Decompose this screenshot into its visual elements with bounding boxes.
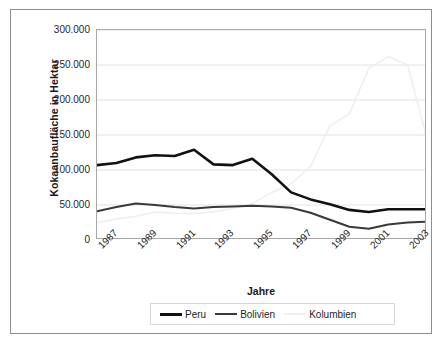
chart-legend: PeruBolivienKolumbien — [150, 303, 395, 325]
legend-label: Bolivien — [240, 309, 275, 320]
y-axis-tick: 50.000 — [28, 199, 90, 210]
y-axis-tick: 0 — [28, 234, 90, 245]
y-axis-tick: 300.000 — [28, 24, 90, 35]
y-axis-tick: 200.000 — [28, 94, 90, 105]
series-line-kolumbien — [97, 57, 426, 223]
legend-line-icon — [215, 313, 237, 315]
series-line-peru — [97, 150, 426, 212]
y-axis-tick: 100.000 — [28, 164, 90, 175]
plot-area — [96, 29, 426, 239]
plot-canvas — [97, 30, 426, 239]
x-axis-tick-labels: 198719891991199319951997199920012003 — [96, 241, 426, 285]
legend-item-bolivien[interactable]: Bolivien — [215, 309, 275, 320]
legend-label: Kolumbien — [309, 309, 356, 320]
y-axis-tick-labels: 300.000250.000200.000150.000100.00050.00… — [28, 29, 90, 239]
legend-item-peru[interactable]: Peru — [160, 309, 206, 320]
x-axis-title: Jahre — [96, 285, 426, 297]
legend-line-icon — [160, 313, 182, 316]
y-axis-tick: 250.000 — [28, 59, 90, 70]
legend-label: Peru — [185, 309, 206, 320]
chart-figure: Kokaanbaufläche in Hektar 300.000250.000… — [0, 0, 444, 349]
series-line-bolivien — [97, 204, 426, 229]
legend-item-kolumbien[interactable]: Kolumbien — [284, 309, 356, 320]
y-axis-tick: 150.000 — [28, 129, 90, 140]
legend-line-icon — [284, 313, 306, 315]
